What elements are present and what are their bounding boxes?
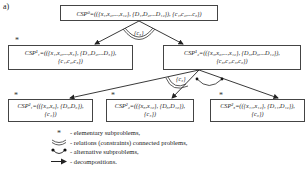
decomposition-arrow (70, 70, 199, 98)
relation-arcs-icon (50, 138, 68, 147)
subproblem-node-2-1: CSP²₁=(({x₅,x₆}, {D₅,D₆}), {c₄}) (8, 99, 93, 122)
star-icon: * (50, 128, 68, 137)
alternative-arc (197, 79, 222, 86)
legend-item-decompositions: - decompositions. (50, 157, 187, 167)
legend-text: - relations (constraints) connected prob… (70, 139, 187, 146)
root-problem-text: CSP⁰=(({x₁,x₂,...,x₁₂}, {D₁,D₂,...D₁₂}),… (76, 10, 201, 17)
node-line: CSP¹₂=(({x₅,x₆,...,x₁₂}, {D₅,D₆,...D₁₂})… (164, 49, 300, 57)
legend-text: - decompositions. (70, 158, 117, 165)
node-line: CSP¹₁=(({x₁,x₂,...,x₅}, {D₁,D₂,...D₅}), (9, 49, 132, 57)
node-line: {c₄}) (9, 110, 92, 118)
elementary-star-icon: * (15, 37, 19, 45)
legend: * - elementary subproblems, - relations … (50, 128, 187, 166)
decomposition-arrow (139, 21, 183, 44)
legend-item-elementary: * - elementary subproblems, (50, 128, 187, 138)
alternative-dot (196, 78, 199, 81)
node-line: {c₅}) (107, 110, 193, 118)
node-line: CSP²₁=(({x₅,x₆}, {D₅,D₆}), (9, 102, 92, 110)
subproblem-node-1-2: CSP¹₂=(({x₅,x₆,...,x₁₂}, {D₅,D₆,...D₁₂})… (163, 45, 301, 70)
arrow-icon (50, 157, 68, 166)
svg-text:*: * (57, 129, 61, 137)
subproblem-node-2-2: CSP²₂=(({x₈,x₁₀}, {D₈,D₁₀}), {c₅}) (106, 99, 194, 122)
connection-label-mid: {c₅} (176, 76, 186, 82)
legend-item-alternative: - alternative subproblems, (50, 147, 187, 157)
legend-text: - elementary subproblems, (70, 129, 140, 136)
connection-label-top: {c₃} (134, 30, 144, 36)
decomposition-arrow (199, 70, 278, 98)
node-line: CSP²₂=(({x₈,x₁₀}, {D₈,D₁₀}), (107, 102, 193, 110)
decomposition-arrow (95, 21, 139, 44)
node-line: {c₁,c₂,c₃}) (9, 57, 132, 65)
alternative-arc-icon (50, 147, 68, 156)
subproblem-node-2-3: CSP²₃=(({x₁₁,x₁₂}, {D₁₁,D₁₂}), {c₆}) (210, 99, 305, 122)
alternative-dot (221, 78, 224, 81)
root-problem-node: CSP⁰=(({x₁,x₂,...,x₁₂}, {D₁,D₂,...D₁₂}),… (60, 5, 218, 21)
node-line: {c₃,c₄,c₅,c₆}) (164, 57, 300, 65)
legend-item-relations: - relations (constraints) connected prob… (50, 138, 187, 148)
node-line: {c₆}) (211, 110, 304, 118)
node-line: CSP²₃=(({x₁₁,x₁₂}, {D₁₁,D₁₂}), (211, 102, 304, 110)
subproblem-node-1-1: CSP¹₁=(({x₁,x₂,...,x₅}, {D₁,D₂,...D₅}), … (8, 45, 133, 70)
legend-text: - alternative subproblems, (70, 148, 139, 155)
